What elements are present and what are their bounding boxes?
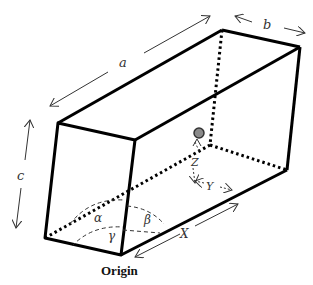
atom-icon [194, 128, 204, 138]
visible-edges [45, 30, 300, 255]
a-arrow-upper [144, 16, 210, 53]
b-arrow-right [284, 28, 305, 33]
y-arrow-left [195, 181, 204, 183]
label-alpha: α [94, 211, 102, 225]
c-arrow-up [25, 120, 30, 160]
c-arrow-down [16, 188, 21, 228]
hidden-edge-vertical-back [210, 30, 222, 145]
label-a: a [119, 55, 127, 70]
b-arrow-left [235, 16, 252, 22]
label-x: X [179, 227, 189, 241]
label-origin: Origin [101, 263, 139, 278]
edge-back-right-vertical [287, 47, 300, 170]
edge-top-right [135, 47, 300, 140]
label-y: Y [206, 180, 215, 193]
unit-cell-diagram: a b c α β γ X Y Z Origin [0, 0, 313, 285]
label-c: c [17, 168, 25, 183]
edge-top-back [222, 30, 300, 47]
label-gamma: γ [108, 229, 116, 243]
label-b: b [263, 17, 271, 32]
label-beta: β [143, 213, 151, 227]
hidden-edge-back-bottom [210, 145, 287, 170]
atom-marker-arrow [193, 139, 201, 146]
front-face [45, 123, 135, 255]
y-arrow-right [220, 187, 232, 190]
z-arrow [193, 168, 195, 183]
gamma-line-right [123, 230, 160, 233]
label-z: Z [190, 156, 199, 169]
edge-top-left [58, 30, 222, 123]
gamma-arc [72, 227, 123, 246]
